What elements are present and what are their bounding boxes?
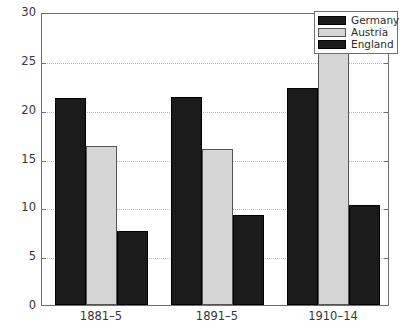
bar-england-1910-14[interactable] — [349, 205, 380, 305]
legend: Germany Austria England — [314, 11, 398, 54]
legend-item-england[interactable]: England — [318, 39, 394, 50]
bar-chart: 0 5 10 15 20 25 30 — [0, 0, 404, 334]
y-axis-tick-labels: 0 5 10 15 20 25 30 — [0, 13, 36, 306]
legend-label-germany: Germany — [351, 15, 399, 26]
x-axis-tick-labels: 1881–5 1891–5 1910–14 — [41, 310, 389, 332]
x-tick-label-1: 1881–5 — [80, 310, 122, 324]
x-tick-label-3: 1910–14 — [308, 310, 358, 324]
y-tick-label: 30 — [0, 7, 36, 19]
legend-label-england: England — [351, 39, 394, 50]
bars-layer — [42, 14, 388, 305]
bar-germany-1881-5[interactable] — [55, 98, 86, 305]
y-tick-label: 10 — [0, 203, 36, 215]
bar-germany-1910-14[interactable] — [287, 88, 318, 305]
y-tick-label: 0 — [0, 300, 36, 312]
x-tick-label-2: 1891–5 — [196, 310, 238, 324]
legend-swatch-austria-icon — [318, 28, 346, 37]
y-tick-label: 5 — [0, 251, 36, 263]
bar-austria-1891-5[interactable] — [202, 149, 233, 305]
legend-label-austria: Austria — [351, 27, 388, 38]
legend-item-austria[interactable]: Austria — [318, 27, 394, 38]
y-tick-label: 15 — [0, 154, 36, 166]
y-tick-label: 25 — [0, 56, 36, 68]
bar-austria-1881-5[interactable] — [86, 146, 117, 305]
bar-germany-1891-5[interactable] — [171, 97, 202, 305]
bar-england-1881-5[interactable] — [117, 231, 148, 305]
legend-swatch-england-icon — [318, 40, 346, 49]
bar-austria-1910-14[interactable] — [318, 52, 349, 305]
legend-item-germany[interactable]: Germany — [318, 15, 394, 26]
bar-england-1891-5[interactable] — [233, 215, 264, 305]
y-tick-label: 20 — [0, 105, 36, 117]
plot-area — [41, 13, 389, 306]
legend-swatch-germany-icon — [318, 16, 346, 25]
